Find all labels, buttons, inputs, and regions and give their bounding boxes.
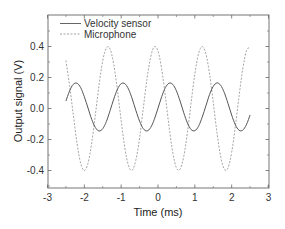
x-tick-labels: -3-2-10123 [43,192,272,203]
x-tick-label: 2 [229,192,235,203]
legend-label-velocity-sensor: Velocity sensor [84,18,152,29]
x-tick-label: 3 [266,192,272,203]
x-tick-label: -1 [117,192,126,203]
y-tick-label: 0.0 [30,103,44,114]
y-tick-label: 0.4 [30,41,44,52]
x-tick-label: -2 [80,192,89,203]
chart-canvas: -3-2-10123 -0.4-0.20.00.20.4 Velocity se… [0,0,285,229]
x-tick-label: -3 [43,192,52,203]
y-tick-label: -0.4 [27,165,45,176]
y-axis-title: Output signal (V) [12,60,24,143]
axes-box [48,15,269,188]
axes-frame [48,15,269,188]
legend-label-microphone: Microphone [84,29,137,40]
x-tick-label: 0 [155,192,161,203]
y-tick-label: -0.2 [27,134,45,145]
y-tick-labels: -0.4-0.20.00.20.4 [27,41,45,176]
series-velocity-sensor [66,83,250,131]
y-tick-label: 0.2 [30,72,44,83]
x-tick-label: 1 [192,192,198,203]
x-axis-title: Time (ms) [133,206,182,218]
plot-area [66,47,250,171]
legend: Velocity sensor Microphone [60,18,152,40]
